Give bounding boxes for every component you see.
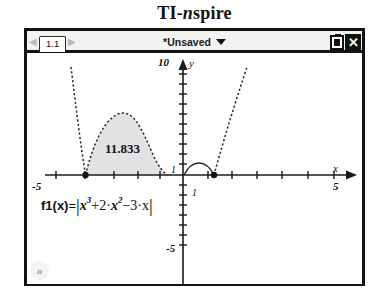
abs-close-bar: |: [149, 195, 153, 216]
page-title: TI-nspire: [0, 0, 389, 26]
page-title-suffix: spire: [193, 3, 232, 24]
close-icon[interactable]: ✕: [345, 34, 361, 50]
function-curve-left-branch: [71, 67, 86, 175]
x-axis-min-label: -5: [32, 181, 41, 192]
function-name: f1: [41, 198, 53, 213]
x-axis-name-label: x: [333, 163, 338, 174]
graph-plot: [27, 53, 362, 284]
integral-value-label[interactable]: 11.833: [105, 142, 140, 155]
tab-page-1-1[interactable]: 1.1: [39, 36, 66, 52]
root-point-right[interactable]: [211, 172, 217, 178]
abs-open-bar: |: [76, 195, 80, 216]
term2-exponent: 2: [118, 195, 123, 205]
root-point-left[interactable]: [82, 172, 88, 178]
term1-exponent: 3: [87, 195, 92, 205]
x-axis-max-label: 5: [333, 181, 339, 192]
x-axis-one-label: 1: [192, 188, 197, 198]
document-name[interactable]: *Unsaved: [163, 36, 211, 48]
term1-base: x: [80, 198, 87, 213]
y-axis-arrow-icon: [179, 59, 188, 70]
y-axis-max-label: 10: [158, 57, 169, 68]
y-axis-name-label: y: [189, 58, 194, 69]
graph-canvas[interactable]: 10 y -5 1 1 x 5 -5 11.833 f1(x)=|x3+2·x2…: [27, 53, 362, 284]
expand-chevron-icon[interactable]: »: [30, 261, 49, 280]
term2-base: x: [111, 198, 118, 213]
term2-coefficient: 2·: [99, 198, 111, 213]
page-title-italic: n: [183, 3, 193, 24]
battery-icon: [330, 35, 344, 50]
x-axis-arrow-icon: [346, 171, 357, 180]
function-curve-small-hump: [184, 163, 214, 175]
prev-page-arrow-icon[interactable]: ◀: [27, 37, 39, 47]
chevron-down-icon[interactable]: [216, 39, 226, 45]
next-page-arrow-icon[interactable]: ▶: [66, 37, 78, 47]
titlebar: ◀ 1.1 ▶ *Unsaved ✕: [27, 31, 362, 53]
function-equals: =: [68, 198, 76, 213]
tab-strip: ◀ 1.1 ▶: [27, 31, 78, 53]
function-curve-right-branch: [214, 67, 247, 175]
y-axis-min-label: -5: [166, 243, 175, 254]
calculator-window: ◀ 1.1 ▶ *Unsaved ✕: [24, 28, 365, 286]
function-arg: (x): [53, 198, 69, 213]
page-title-prefix: TI-: [157, 3, 183, 24]
term3: 3·x: [130, 198, 149, 213]
y-axis-one-label: 1: [171, 165, 176, 175]
function-entry-line[interactable]: f1(x)=|x3+2·x2−3·x|: [41, 194, 153, 213]
titlebar-right-group: ✕: [330, 31, 361, 53]
